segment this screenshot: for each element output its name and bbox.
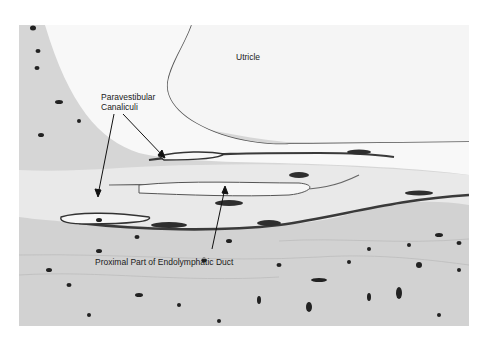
- label-endolymphatic-duct: Proximal Part of Endolymphatic Duct: [95, 257, 233, 267]
- label-paravestibular-line2: Canaliculi: [101, 102, 155, 112]
- micrograph-illustration: [19, 25, 469, 326]
- label-paravestibular-line1: Paravestibular: [101, 92, 155, 102]
- label-paravestibular: Paravestibular Canaliculi: [101, 92, 155, 112]
- histology-micrograph: Utricle Paravestibular Canaliculi Proxim…: [19, 25, 469, 326]
- canaliculus-lower: [61, 213, 150, 224]
- label-utricle: Utricle: [236, 52, 260, 62]
